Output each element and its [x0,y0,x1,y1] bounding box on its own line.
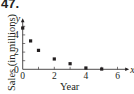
data-point [21,26,24,29]
data-point [29,39,32,42]
data-point [84,66,87,69]
data-point [37,49,40,52]
y-axis-symbol: y [15,13,21,24]
y-tick-label: 2 [14,47,19,57]
x-tick-label: 6 [115,71,120,81]
x-axis-arrow-icon [125,68,129,72]
y-tick-label: 0 [14,65,19,75]
data-point [53,57,56,60]
scatter-plot: 0246024xy [0,0,134,94]
x-tick-label: 4 [84,71,89,81]
y-axis-arrow-icon [21,18,25,22]
x-tick-label: 2 [52,71,57,81]
data-point [69,62,72,65]
x-axis-symbol: x [129,64,134,75]
data-point [100,67,103,70]
y-tick-label: 4 [14,30,19,40]
x-tick-label: 0 [20,71,25,81]
